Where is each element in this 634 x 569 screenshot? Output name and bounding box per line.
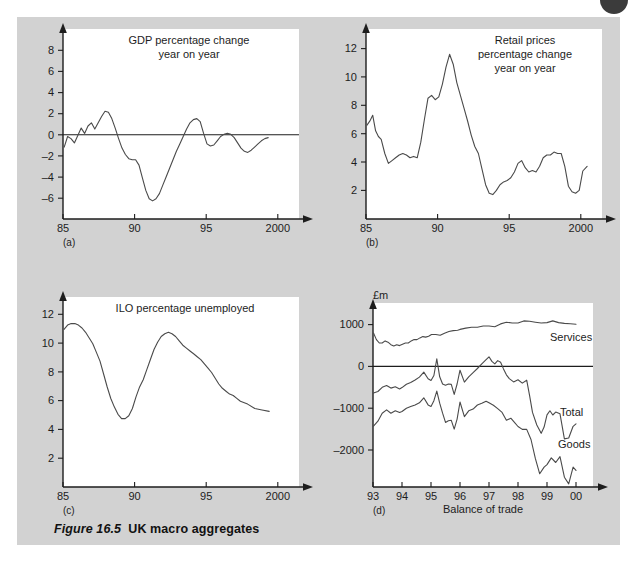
chart-b-letter: (b): [366, 237, 378, 248]
chart-c-axes: [58, 291, 313, 491]
chart-c-ilo-unemployment: 12 10 8 6 4 2 85 90 95 2000 ILO percenta…: [17, 285, 317, 520]
chart-c-xtick-85: 85: [57, 490, 69, 502]
chart-d-xtick-97: 97: [483, 490, 495, 502]
chart-c-ytick-2: 2: [48, 452, 54, 464]
chart-d-ytick-1000: 1000: [340, 318, 364, 330]
chart-c-xtick-2000: 2000: [266, 490, 290, 502]
chart-a-ytick-m2: –2: [42, 150, 54, 162]
chart-a-gdp: 8 6 4 2 0 –2 –4 –6 85 90 95 2000 GDP per…: [17, 17, 317, 252]
chart-a-curve: [64, 111, 268, 201]
chart-a-ytick-8: 8: [48, 44, 54, 56]
chart-b-xtick-85: 85: [360, 222, 372, 234]
chart-d-ytick-m2000: –2000: [333, 444, 364, 456]
chart-c-letter: (c): [63, 505, 75, 516]
chart-a-ytick-6: 6: [48, 65, 54, 77]
chart-b-title-line1: Retail prices: [495, 34, 556, 46]
chart-b-xtick-95: 95: [503, 222, 515, 234]
chart-d-curve-goods: [374, 391, 577, 484]
page-corner-marker: [600, 0, 628, 14]
chart-c-ytick-8: 8: [48, 366, 54, 378]
chart-c-ytick-6: 6: [48, 394, 54, 406]
figure-panel: 8 6 4 2 0 –2 –4 –6 85 90 95 2000 GDP per…: [17, 17, 620, 545]
chart-b-xtick-90: 90: [431, 222, 443, 234]
figure-caption: Figure 16.5 UK macro aggregates: [54, 522, 259, 536]
chart-b-ytick-4: 4: [351, 156, 357, 168]
chart-d-xtick-94: 94: [396, 490, 408, 502]
chart-c-xtick-90: 90: [128, 490, 140, 502]
chart-c-xtick-95: 95: [200, 490, 212, 502]
chart-a-xtick-95: 95: [200, 222, 212, 234]
chart-c-curve: [64, 324, 269, 419]
chart-d-xtick-95: 95: [425, 490, 437, 502]
chart-d-unit-label: £m: [373, 289, 388, 301]
chart-d-xtick-98: 98: [512, 490, 524, 502]
chart-d-series-label-goods: Goods: [558, 438, 591, 450]
chart-a-title-line2: year on year: [158, 48, 219, 60]
chart-a-ytick-0: 0: [48, 129, 54, 141]
chart-d-letter: (d): [373, 505, 385, 516]
chart-d-ytick-0: 0: [358, 360, 364, 372]
chart-d-series-label-services: Services: [550, 331, 593, 343]
chart-b-curve: [367, 54, 587, 194]
chart-a-letter: (a): [63, 237, 75, 248]
figure-number: Figure 16.5: [54, 522, 121, 536]
chart-b-title-line2: percentage change: [478, 48, 572, 60]
chart-a-xtick-85: 85: [57, 222, 69, 234]
chart-c-title: ILO percentage unemployed: [116, 302, 255, 314]
chart-a-ytick-2: 2: [48, 107, 54, 119]
chart-a-xtick-90: 90: [128, 222, 140, 234]
chart-d-curve-services: [374, 321, 577, 346]
chart-c-ytick-12: 12: [42, 308, 54, 320]
chart-b-ytick-10: 10: [345, 71, 357, 83]
chart-a-xtick-2000: 2000: [266, 222, 290, 234]
chart-d-ytick-m1000: –1000: [333, 402, 364, 414]
chart-b-ytick-8: 8: [351, 99, 357, 111]
chart-d-xlabel: Balance of trade: [443, 503, 523, 515]
chart-d-xtick-00: 00: [570, 490, 582, 502]
chart-b-title-line3: year on year: [494, 62, 555, 74]
chart-a-title-line1: GDP percentage change: [129, 34, 250, 46]
chart-b-ytick-12: 12: [345, 42, 357, 54]
figure-page: 8 6 4 2 0 –2 –4 –6 85 90 95 2000 GDP per…: [0, 0, 634, 569]
chart-a-ytick-4: 4: [48, 86, 54, 98]
chart-b-xtick-2000: 2000: [569, 222, 593, 234]
chart-a-ytick-m6: –6: [42, 192, 54, 204]
chart-c-ytick-10: 10: [42, 337, 54, 349]
chart-d-series-label-total: Total: [560, 406, 583, 418]
chart-b-ytick-6: 6: [351, 128, 357, 140]
chart-d-axes: [368, 299, 608, 491]
chart-d-xtick-93: 93: [367, 490, 379, 502]
chart-b-ytick-2: 2: [351, 184, 357, 196]
chart-d-curve-total: [374, 357, 577, 439]
chart-d-xtick-99: 99: [541, 490, 553, 502]
chart-d-balance-of-trade: 1000 0 –1000 –2000 93 94 95 96 97 98 99 …: [320, 285, 620, 520]
chart-d-xtick-96: 96: [454, 490, 466, 502]
chart-b-retail-prices: 12 10 8 6 4 2 85 90 95 2000 Retail price…: [320, 17, 620, 252]
figure-title: UK macro aggregates: [128, 522, 259, 536]
chart-c-ytick-4: 4: [48, 423, 54, 435]
chart-a-ytick-m4: –4: [42, 171, 54, 183]
